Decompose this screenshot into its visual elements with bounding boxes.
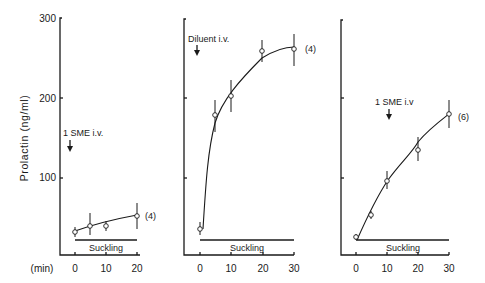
arrow-down-icon	[194, 45, 200, 56]
panel-1-data-point	[135, 214, 140, 219]
prolactin-chart: Prolactin (ng/ml) 300 200 100 (min) 0 10…	[0, 0, 485, 283]
panel-3-xtick-10: 10	[381, 263, 393, 274]
panel-3-xtick-0: 0	[353, 263, 359, 274]
panel-3-data-point	[447, 112, 452, 117]
panel-2-data-point	[213, 113, 218, 118]
panel-2-xtick-10: 10	[225, 263, 237, 274]
panel-2-data-point	[198, 227, 203, 232]
panel-2: 0 10 20 30 Suckling Diluent i.v. (4)	[184, 19, 316, 274]
panel-2-data-point	[229, 94, 234, 99]
panel-2-n-label: (4)	[305, 44, 316, 54]
y-axis-label: Prolactin (ng/ml)	[18, 95, 30, 182]
y-tick-100: 100	[39, 172, 56, 183]
y-tick-200: 200	[39, 93, 56, 104]
panel-2-injection-label: Diluent i.v.	[188, 34, 229, 44]
panel-2-data-point	[292, 47, 297, 52]
panel-1-data-point	[88, 224, 93, 229]
panel-3-data-point	[385, 179, 390, 184]
panel-3-xtick-30: 30	[443, 263, 455, 274]
panel-3-xtick-20: 20	[412, 263, 424, 274]
panel-3-suckling-label: Suckling	[386, 243, 420, 253]
panel-3-data-point	[369, 213, 374, 218]
panel-3-n-label: (6)	[458, 112, 469, 122]
panel-3-data-point	[416, 148, 421, 153]
panel-1-xtick-20: 20	[131, 263, 143, 274]
y-tick-300: 300	[39, 13, 56, 24]
panel-1-data-point	[104, 224, 109, 229]
panel-3-axes	[341, 20, 449, 255]
panel-2-suckling-label: Suckling	[230, 243, 264, 253]
arrow-down-icon	[67, 140, 73, 152]
panel-2-xtick-30: 30	[288, 263, 300, 274]
panel-3-fit-curve	[357, 114, 449, 240]
panel-1-suckling-label: Suckling	[89, 243, 123, 253]
panel-2-xtick-0: 0	[197, 263, 203, 274]
panel-2-fit-curve	[203, 47, 294, 229]
panel-2-data-point	[260, 49, 265, 54]
panel-3-data-point	[354, 235, 359, 240]
panel-3-injection-label: 1 SME i.v	[375, 97, 414, 107]
panel-1-data-point	[73, 230, 78, 235]
arrow-down-icon	[386, 109, 392, 120]
x-unit-label: (min)	[31, 263, 54, 274]
panel-1: 0 10 20 Suckling 1 SME i.v. (4)	[60, 18, 156, 274]
panel-2-axes	[184, 19, 294, 255]
panel-2-xtick-20: 20	[257, 263, 269, 274]
panel-1-xtick-10: 10	[100, 263, 112, 274]
panel-3: 0 10 20 30 Suckling 1 SME i.v (6)	[341, 20, 469, 274]
panel-1-xtick-0: 0	[72, 263, 78, 274]
panel-1-n-label: (4)	[145, 211, 156, 221]
panel-1-injection-label: 1 SME i.v.	[63, 128, 103, 138]
